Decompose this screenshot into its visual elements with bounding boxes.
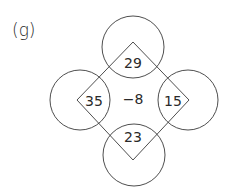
diagram-shapes bbox=[0, 0, 238, 193]
corner-value-top: 29 bbox=[124, 55, 142, 71]
puzzle-diagram: (g) 29 35 15 23 −8 bbox=[0, 0, 238, 193]
corner-value-right: 15 bbox=[164, 93, 182, 109]
part-label: (g) bbox=[12, 20, 35, 40]
center-value: −8 bbox=[123, 91, 144, 107]
corner-value-bottom: 23 bbox=[124, 129, 142, 145]
corner-value-left: 35 bbox=[85, 93, 103, 109]
